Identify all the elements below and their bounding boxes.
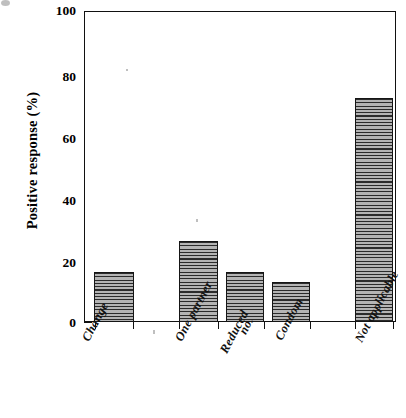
bar-chart: Positive response (%) 100 80 60 40 20 0 … [0,0,406,418]
x-tick-4 [218,322,219,329]
y-axis-title: Positive response (%) [24,51,41,271]
y-tick-label-40: 40 [36,194,76,208]
scan-speck-2 [196,219,198,222]
y-tick-label-0: 0 [36,316,76,330]
x-tick-8 [393,322,394,329]
y-tick-label-80: 80 [36,70,76,84]
x-tick-6 [310,322,311,329]
y-tick-label-100: 100 [36,4,76,18]
y-tick-label-60: 60 [36,132,76,146]
scan-speck-3 [126,69,128,71]
x-tick-5 [264,322,265,329]
y-tick-label-20: 20 [36,256,76,270]
x-tick-2 [133,322,134,329]
scan-speck-4 [1,0,10,6]
scan-speck-1 [153,330,155,334]
